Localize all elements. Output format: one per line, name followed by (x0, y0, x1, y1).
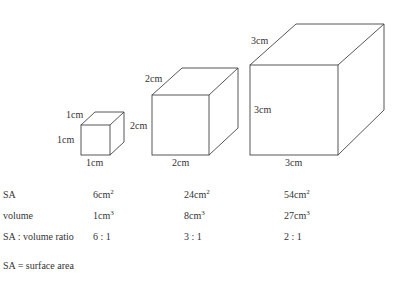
cube-1cm-height-label: 1cm (57, 135, 74, 145)
cube-2cm-depth-label: 2cm (145, 74, 162, 84)
cube-1cm-top-face (81, 112, 124, 125)
cube-3cm-top-face (250, 24, 384, 65)
row-label: SA : volume ratio (3, 232, 74, 242)
cube-3cm-depth-label: 3cm (251, 36, 268, 46)
cube-3cm-height-label: 3cm (254, 105, 271, 115)
cube-3cm (250, 24, 384, 155)
volume-value-1cm: 1cm3 (93, 211, 114, 221)
row-label: SA (3, 190, 16, 200)
cube-3cm-width-label: 3cm (285, 158, 302, 168)
cube-1cm-width-label: 1cm (86, 158, 103, 168)
footnote: SA = surface area (3, 261, 74, 271)
cube-2cm-top-face (152, 68, 238, 95)
cube-2cm-height-label: 2cm (130, 121, 147, 131)
ratio-value-2cm: 3 : 1 (184, 232, 202, 242)
cube-2cm-width-label: 2cm (172, 158, 189, 168)
sa-value-1cm: 6cm2 (93, 190, 114, 200)
ratio-value-3cm: 2 : 1 (284, 232, 302, 242)
cube-1cm (81, 112, 124, 155)
cube-2cm (152, 68, 238, 155)
sa-value-2cm: 24cm2 (184, 190, 210, 200)
volume-value-3cm: 27cm3 (284, 211, 310, 221)
cube-2cm-front-face (152, 95, 209, 155)
ratio-value-1cm: 6 : 1 (93, 232, 111, 242)
row-label: volume (3, 211, 33, 221)
cube-1cm-front-face (81, 125, 110, 155)
volume-value-2cm: 8cm3 (184, 211, 205, 221)
cube-3cm-side-face (338, 24, 384, 155)
cube-1cm-depth-label: 1cm (66, 110, 83, 120)
sa-value-3cm: 54cm2 (284, 190, 310, 200)
